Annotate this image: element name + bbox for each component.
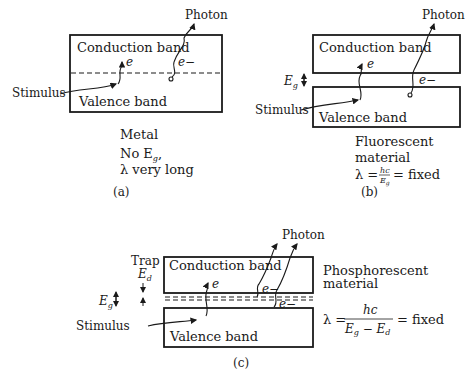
material-label-line2: material <box>355 150 410 165</box>
svg-text:Eg: Eg <box>379 176 390 187</box>
svg-text:hc: hc <box>380 166 390 175</box>
trap-label: Trap <box>131 254 160 268</box>
no-gap-note: No Eg, <box>120 146 162 163</box>
hole-icon <box>408 93 412 97</box>
photon-label: Photon <box>185 8 228 22</box>
stimulus-label: Stimulus <box>12 86 66 100</box>
panel-b-fluorescent: Conduction band Valence band Photon Stim… <box>255 8 465 199</box>
svg-text:λ =: λ = <box>323 312 346 327</box>
stimulus-arrow-icon <box>148 320 196 326</box>
band-diagram-figure: Conduction band Valence band Photon Stim… <box>0 0 469 381</box>
conduction-band-label: Conduction band <box>77 40 190 55</box>
stimulus-arrow-icon <box>301 100 358 110</box>
photon-label: Photon <box>282 228 325 242</box>
electron-label: e <box>367 57 374 71</box>
photon-label: Photon <box>422 8 465 22</box>
electron-minus-label: e− <box>419 73 436 87</box>
trap-energy-label: Ed <box>137 267 152 283</box>
stimulus-arrow-icon <box>60 84 116 94</box>
electron-label: e <box>212 277 219 291</box>
hole-icon <box>169 77 173 81</box>
panel-a-metal: Conduction band Valence band Photon Stim… <box>12 8 228 199</box>
caption-a: (a) <box>113 185 130 199</box>
electron-label: e <box>126 55 133 69</box>
valence-band-label: Valence band <box>169 329 258 344</box>
electron-excitation-arrow-icon <box>359 64 362 100</box>
material-label-line2: material <box>323 276 378 291</box>
conduction-band-label: Conduction band <box>319 40 432 55</box>
valence-band-label: Valence band <box>318 110 407 125</box>
svg-text:= fixed: = fixed <box>393 167 440 182</box>
wavelength-formula: λ = hc Eg − Ed = fixed <box>323 303 444 337</box>
valence-band-label: Valence band <box>78 94 167 109</box>
electron-minus-label: e− <box>178 55 195 69</box>
material-label-line1: Fluorescent <box>355 134 434 149</box>
svg-text:= fixed: = fixed <box>397 312 444 327</box>
svg-text:λ =: λ = <box>355 167 378 182</box>
material-label: Metal <box>120 127 158 142</box>
electron-minus-label-1: e− <box>262 282 279 296</box>
gap-label: Eg <box>283 74 298 90</box>
wavelength-formula: λ = hc Eg = fixed <box>355 166 440 187</box>
stimulus-label: Stimulus <box>255 103 309 117</box>
svg-text:hc: hc <box>363 303 378 317</box>
caption-b: (b) <box>361 185 378 199</box>
conduction-band-label: Conduction band <box>169 258 282 273</box>
caption-c: (c) <box>233 356 249 370</box>
stimulus-label: Stimulus <box>76 319 130 333</box>
electron-minus-label-2: e− <box>279 297 296 311</box>
svg-text:Eg − Ed: Eg − Ed <box>344 322 390 337</box>
wavelength-note: λ very long <box>120 162 194 177</box>
panel-c-phosphorescent: Conduction band Valence band Photon Trap… <box>76 228 444 370</box>
gap-label: Eg <box>98 294 113 310</box>
